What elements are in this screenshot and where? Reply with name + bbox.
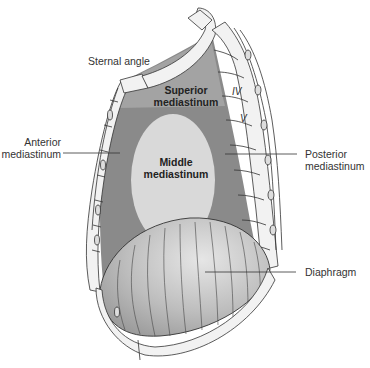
mediastinum-diagram: Sternal angle Superior mediastinum Middl… [0, 0, 370, 368]
anterior-label-line2: mediastinum [0, 148, 61, 160]
superior-mediastinum-label: Superior mediastinum [136, 84, 236, 108]
posterior-label-line1: Posterior [305, 148, 365, 160]
superior-label-line1: Superior [136, 84, 236, 96]
middle-mediastinum-label: Middle mediastinum [126, 156, 226, 180]
posterior-mediastinum-label: Posterior mediastinum [305, 148, 365, 172]
middle-label-line2: mediastinum [126, 168, 226, 180]
vertebra-v-label: V [240, 113, 247, 125]
anterior-mediastinum-label: Anterior mediastinum [0, 136, 61, 160]
vertebra-iv-label: IV [232, 86, 241, 98]
anterior-label-line1: Anterior [0, 136, 61, 148]
diaphragm-label: Diaphragm [305, 266, 356, 278]
superior-label-line2: mediastinum [136, 96, 236, 108]
posterior-label-line2: mediastinum [305, 160, 365, 172]
diagram-artwork [0, 0, 370, 368]
sternal-angle-label: Sternal angle [88, 55, 150, 67]
middle-label-line1: Middle [126, 156, 226, 168]
